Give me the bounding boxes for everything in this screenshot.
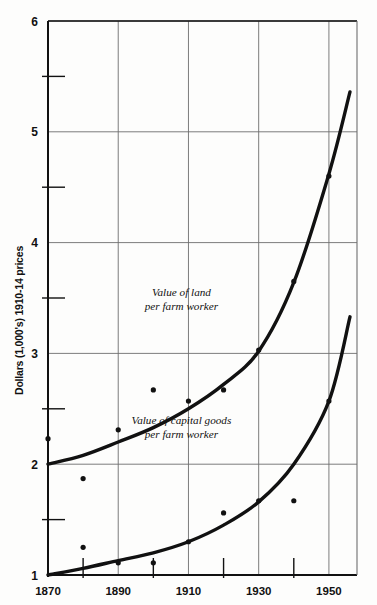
data-point	[186, 539, 191, 544]
data-point	[256, 498, 261, 503]
x-tick-label: 1950	[316, 585, 342, 597]
data-point	[116, 427, 121, 432]
data-point	[221, 387, 226, 392]
y-tick-label: 3	[31, 347, 38, 361]
data-point	[151, 560, 156, 565]
data-point	[151, 387, 156, 392]
data-point	[186, 398, 191, 403]
chart-figure: 654321 18701890191019301950 Value of lan…	[0, 0, 377, 605]
data-point	[256, 347, 261, 352]
y-tick-label: 4	[31, 236, 38, 250]
land-curve-label-line1: Value of land	[152, 286, 211, 298]
data-point	[116, 560, 121, 565]
y-axis-title: Dollars (1,000's) 1910-14 prices	[13, 246, 25, 395]
x-tick-label: 1890	[105, 585, 131, 597]
x-tick-label: 1930	[246, 585, 272, 597]
capital-curve-label-line2: per farm worker	[144, 428, 219, 440]
y-axis-title-text: Dollars (1,000's) 1910-14 prices	[13, 246, 25, 395]
x-tick-label: 1910	[176, 585, 202, 597]
land-curve-label-line2: per farm worker	[144, 300, 219, 312]
y-tick-label: 1	[31, 569, 38, 583]
data-point	[291, 279, 296, 284]
data-point	[81, 476, 86, 481]
y-tick-label: 6	[31, 15, 38, 29]
data-point	[326, 398, 331, 403]
y-tick-label: 5	[31, 125, 38, 139]
data-point	[81, 545, 86, 550]
data-point	[45, 436, 50, 441]
data-point	[221, 510, 226, 515]
data-point	[291, 498, 296, 503]
capital-curve-label-line1: Value of capital goods	[132, 414, 232, 426]
y-tick-label: 2	[31, 458, 38, 472]
data-point	[326, 174, 331, 179]
chart-canvas: 654321 18701890191019301950 Value of lan…	[0, 0, 377, 605]
x-tick-label: 1870	[35, 585, 61, 597]
